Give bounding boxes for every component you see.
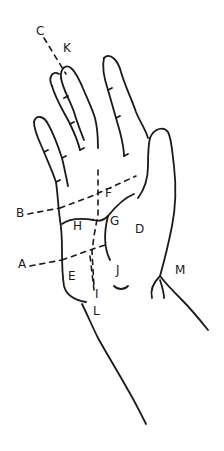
- wrist-line-right: [151, 276, 208, 330]
- crease-j: [114, 286, 128, 289]
- wrist-line-left: [82, 304, 146, 424]
- hand-diagram: A B C D E F G H I J K L M: [0, 0, 224, 451]
- label-l: L: [93, 305, 100, 317]
- label-b: B: [16, 207, 24, 219]
- label-e: E: [68, 270, 76, 282]
- leader-b: [28, 208, 60, 214]
- leader-a-cross: [62, 244, 108, 260]
- label-f: F: [105, 187, 112, 199]
- label-j: J: [116, 264, 120, 276]
- label-k: K: [63, 42, 71, 54]
- label-a: A: [18, 258, 26, 270]
- leader-a: [30, 260, 62, 266]
- leader-f-vertical: [92, 170, 98, 286]
- thumb-outline: [150, 129, 175, 276]
- middle-finger-outline: [50, 73, 59, 86]
- label-h: H: [73, 220, 82, 232]
- crease-h: [62, 216, 108, 224]
- index-finger-outline: [61, 66, 98, 148]
- label-m: M: [175, 264, 185, 276]
- label-g: G: [110, 215, 119, 227]
- label-c: C: [36, 25, 44, 37]
- label-d: D: [135, 223, 144, 235]
- label-i: I: [95, 288, 99, 300]
- little-finger-outline: [34, 117, 68, 186]
